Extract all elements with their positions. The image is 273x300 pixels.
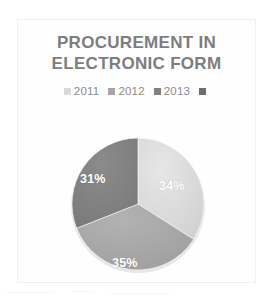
legend-item-2013[interactable]: 2013 (154, 85, 190, 97)
scan-artifact (6, 292, 54, 293)
pie-slice-label-2012: 35% (112, 256, 138, 270)
pie-chart (69, 136, 207, 274)
chart-title: PROCUREMENT IN ELECTRONIC FORM (18, 32, 255, 74)
legend-swatch-icon (108, 88, 115, 95)
scan-artifact (110, 293, 170, 294)
pie-shadow (71, 139, 205, 273)
chart-frame: PROCUREMENT IN ELECTRONIC FORM 2011 2012… (17, 19, 256, 283)
pie-slice[interactable] (72, 138, 138, 228)
legend-label: 2012 (118, 85, 144, 97)
pie-slice-label-2013: 31% (80, 172, 106, 186)
pie-slice-label-2011: 34% (159, 179, 185, 193)
legend-swatch-icon (154, 88, 161, 95)
chart-title-line-2: ELECTRONIC FORM (18, 53, 255, 74)
pie-slice[interactable] (77, 204, 194, 270)
legend-swatch-icon (199, 88, 206, 95)
chart-title-line-1: PROCUREMENT IN (18, 32, 255, 53)
legend-label: 2013 (164, 85, 190, 97)
legend-swatch-icon (64, 88, 71, 95)
pie-slice[interactable] (138, 138, 204, 239)
legend-label: 2011 (74, 85, 100, 97)
chart-legend: 2011 2012 2013 (18, 85, 255, 97)
legend-item-2012[interactable]: 2012 (108, 85, 144, 97)
scan-artifact (72, 291, 94, 292)
pie-slices (72, 138, 204, 270)
legend-item-2011[interactable]: 2011 (64, 85, 100, 97)
legend-item-unlabeled[interactable] (199, 88, 209, 95)
